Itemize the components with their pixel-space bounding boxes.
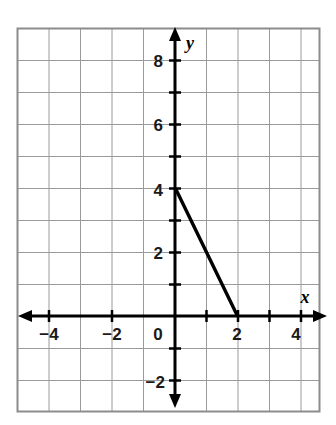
x-tick-label-zero: 0	[153, 325, 162, 344]
y-tick-label-pos8: 8	[154, 52, 163, 71]
coordinate-plane-figure: −4 −2 0 2 4 8 6 4 2 −2 x y	[0, 0, 336, 425]
y-axis-label: y	[184, 33, 195, 53]
y-tick-label-neg2: −2	[146, 373, 165, 392]
y-tick-label-pos4: 4	[154, 181, 164, 200]
x-tick-label-pos4: 4	[291, 325, 301, 344]
y-tick-label-pos2: 2	[154, 244, 163, 263]
y-tick-label-pos6: 6	[154, 116, 163, 135]
graph-canvas: −4 −2 0 2 4 8 6 4 2 −2 x y	[0, 0, 336, 425]
x-tick-label-pos2: 2	[232, 325, 241, 344]
x-tick-label-neg4: −4	[39, 325, 59, 344]
x-tick-label-neg2: −2	[102, 325, 121, 344]
x-axis-label: x	[300, 287, 310, 307]
